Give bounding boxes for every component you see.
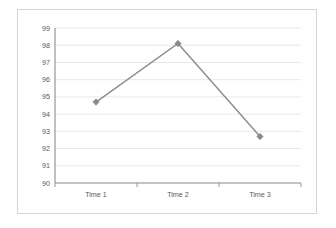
y-axis-tick-label: 90 bbox=[42, 179, 50, 188]
data-series-line bbox=[96, 44, 260, 137]
y-axis-tick-label: 97 bbox=[42, 58, 50, 67]
y-axis-tick-label: 94 bbox=[42, 110, 50, 119]
y-axis-tick-label: 98 bbox=[42, 41, 50, 50]
gridlines bbox=[55, 28, 301, 166]
y-axis-tick-label: 96 bbox=[42, 75, 50, 84]
x-axis-tick-labels: Time 1Time 2Time 3 bbox=[85, 190, 271, 199]
y-axis-tick-label: 91 bbox=[42, 161, 50, 170]
x-axis-tick-label: Time 2 bbox=[167, 190, 189, 199]
y-axis-tick-label: 95 bbox=[42, 92, 50, 101]
x-axis-tickmarks bbox=[55, 183, 301, 187]
y-axis-tick-label: 93 bbox=[42, 127, 50, 136]
x-axis-tick-label: Time 1 bbox=[85, 190, 107, 199]
chart-plot-area: 99989796959493929190 Time 1Time 2Time 3 bbox=[18, 10, 316, 213]
line-chart: 99989796959493929190 Time 1Time 2Time 3 bbox=[18, 10, 318, 215]
y-axis-tick-label: 92 bbox=[42, 144, 50, 153]
chart-frame: 99989796959493929190 Time 1Time 2Time 3 bbox=[17, 9, 317, 214]
x-axis-tick-label: Time 3 bbox=[249, 190, 271, 199]
y-axis-tick-label: 99 bbox=[42, 24, 50, 33]
y-axis-tick-labels: 99989796959493929190 bbox=[42, 24, 50, 188]
data-point-markers bbox=[93, 40, 263, 139]
